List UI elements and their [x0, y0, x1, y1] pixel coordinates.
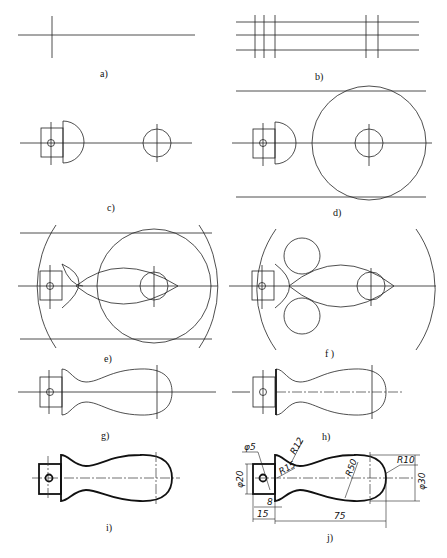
handle-construction-diagram: a) b) c) d)	[0, 0, 447, 558]
dim-body-len: 75	[334, 511, 346, 521]
caption-h: h)	[322, 431, 330, 443]
panel-d: d)	[232, 86, 432, 219]
dim-r50: R50	[343, 457, 359, 477]
panel-b: b)	[236, 15, 419, 83]
panel-j: φ5 φ20 R12 R15 R50 R10 φ30 8 15	[235, 435, 427, 544]
caption-j: j)	[326, 532, 333, 544]
dim-r12: R12	[288, 435, 306, 456]
dim-shank-len: 15	[257, 509, 269, 519]
panel-g: g)	[18, 365, 216, 442]
panel-i: i)	[32, 452, 180, 534]
panel-c: c)	[20, 121, 192, 214]
dim-body-dia: φ30	[417, 472, 427, 490]
caption-a: a)	[100, 68, 108, 80]
panel-a: a)	[18, 16, 195, 80]
dim-r15: R15	[277, 459, 298, 477]
caption-g: g)	[101, 430, 109, 442]
caption-f: f )	[325, 348, 334, 360]
dim-hole-dia: φ5	[244, 442, 256, 452]
panel-f: f )	[229, 229, 436, 360]
caption-e: e)	[104, 353, 112, 365]
panel-h: h)	[232, 365, 404, 443]
dim-shank-dia: φ20	[235, 470, 245, 488]
dim-shank-offset: 8	[267, 497, 273, 507]
caption-c: c)	[107, 202, 115, 214]
dim-r10: R10	[397, 455, 415, 465]
caption-i: i)	[106, 522, 112, 534]
caption-b: b)	[315, 71, 323, 83]
caption-d: d)	[333, 207, 341, 219]
panel-e: e)	[18, 225, 218, 365]
